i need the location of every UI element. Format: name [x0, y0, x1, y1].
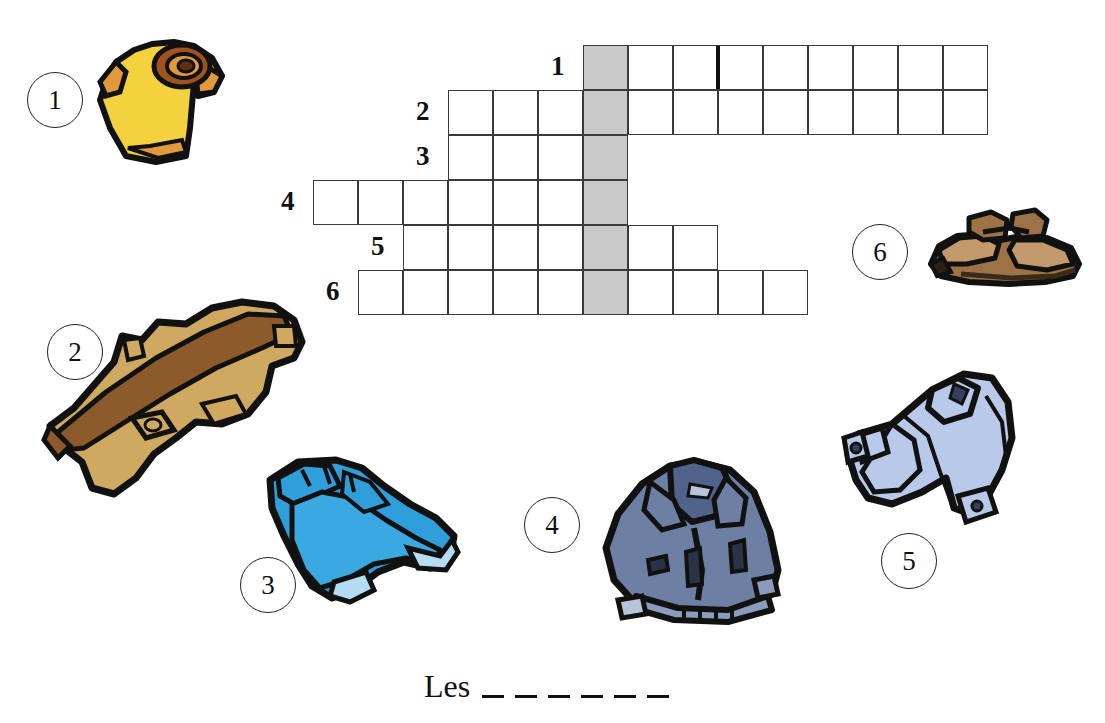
grid-row-number-5: 5: [371, 233, 385, 260]
grid-cell[interactable]: [763, 270, 808, 315]
grid-cell[interactable]: [403, 180, 448, 225]
answer-line[interactable]: Les: [424, 668, 669, 705]
grid-cell[interactable]: [493, 135, 538, 180]
grid-cell[interactable]: [493, 270, 538, 315]
grid-cell[interactable]: [718, 45, 763, 90]
grid-cell[interactable]: [313, 180, 358, 225]
tshirt-icon: [86, 36, 246, 166]
grid-cell[interactable]: [763, 45, 808, 90]
grid-cell[interactable]: [493, 90, 538, 135]
grid-cell[interactable]: [493, 180, 538, 225]
grid-row-number-2: 2: [416, 98, 430, 125]
grid-cell[interactable]: [493, 225, 538, 270]
answer-blank[interactable]: [482, 695, 504, 698]
grid-cell[interactable]: [538, 225, 583, 270]
grid-cell[interactable]: [673, 45, 718, 90]
grid-cell[interactable]: [403, 270, 448, 315]
grid-row-number-6: 6: [326, 278, 340, 305]
item-badge-6-label: 6: [873, 237, 887, 268]
item-badge-4[interactable]: 4: [524, 497, 580, 553]
answer-prompt-label: Les: [424, 668, 470, 705]
grid-cell[interactable]: [853, 45, 898, 90]
grid-cell[interactable]: [898, 90, 943, 135]
grid-cell[interactable]: [628, 225, 673, 270]
grid-cell[interactable]: [763, 90, 808, 135]
grid-cell[interactable]: [448, 180, 493, 225]
grid-cell[interactable]: [448, 225, 493, 270]
grid-cell[interactable]: [673, 225, 718, 270]
grid-cell-shaded-row-1[interactable]: [583, 45, 628, 90]
grid-cell[interactable]: [808, 90, 853, 135]
jeans-icon: [258, 452, 473, 612]
grid-cell[interactable]: [808, 45, 853, 90]
grid-cell[interactable]: [943, 45, 988, 90]
answer-blank[interactable]: [515, 695, 537, 698]
grid-cell[interactable]: [358, 270, 403, 315]
item-badge-1-label: 1: [48, 85, 62, 116]
item-badge-1[interactable]: 1: [27, 72, 83, 128]
grid-cell[interactable]: [538, 270, 583, 315]
worksheet-page: 123456 1 2 3 4 5 6: [0, 0, 1105, 723]
answer-blank[interactable]: [647, 695, 669, 698]
answer-blank[interactable]: [548, 695, 570, 698]
grid-cell-shaded-row-4[interactable]: [583, 180, 628, 225]
answer-blank[interactable]: [614, 695, 636, 698]
grid-cell[interactable]: [628, 90, 673, 135]
grid-cell[interactable]: [898, 45, 943, 90]
grid-cell[interactable]: [943, 90, 988, 135]
grid-cell[interactable]: [448, 90, 493, 135]
shoes-icon: [925, 206, 1085, 296]
grid-cell[interactable]: [673, 90, 718, 135]
grid-row-number-1: 1: [551, 53, 565, 80]
grid-cell-shaded-row-5[interactable]: [583, 225, 628, 270]
grid-row-number-3: 3: [416, 143, 430, 170]
answer-blanks[interactable]: [482, 695, 669, 698]
grid-cell[interactable]: [628, 270, 673, 315]
shirt-icon: [836, 362, 1026, 552]
grid-cell[interactable]: [403, 225, 448, 270]
grid-cell[interactable]: [718, 270, 763, 315]
grid-cell[interactable]: [718, 90, 763, 135]
grid-cell[interactable]: [538, 135, 583, 180]
grid-cell[interactable]: [538, 90, 583, 135]
grid-row-number-4: 4: [281, 188, 295, 215]
grid-divider-mark: [716, 46, 720, 89]
jacket-icon: [588, 448, 788, 628]
item-badge-4-label: 4: [545, 510, 559, 541]
grid-cell[interactable]: [673, 270, 718, 315]
grid-cell[interactable]: [358, 180, 403, 225]
answer-blank[interactable]: [581, 695, 603, 698]
grid-cell[interactable]: [628, 45, 673, 90]
grid-cell[interactable]: [448, 135, 493, 180]
item-badge-6[interactable]: 6: [852, 224, 908, 280]
grid-cell-shaded-row-6[interactable]: [583, 270, 628, 315]
grid-cell[interactable]: [448, 270, 493, 315]
grid-cell[interactable]: [853, 90, 898, 135]
grid-cell[interactable]: [538, 180, 583, 225]
grid-cell-shaded-row-3[interactable]: [583, 135, 628, 180]
grid-cell-shaded-row-2[interactable]: [583, 90, 628, 135]
